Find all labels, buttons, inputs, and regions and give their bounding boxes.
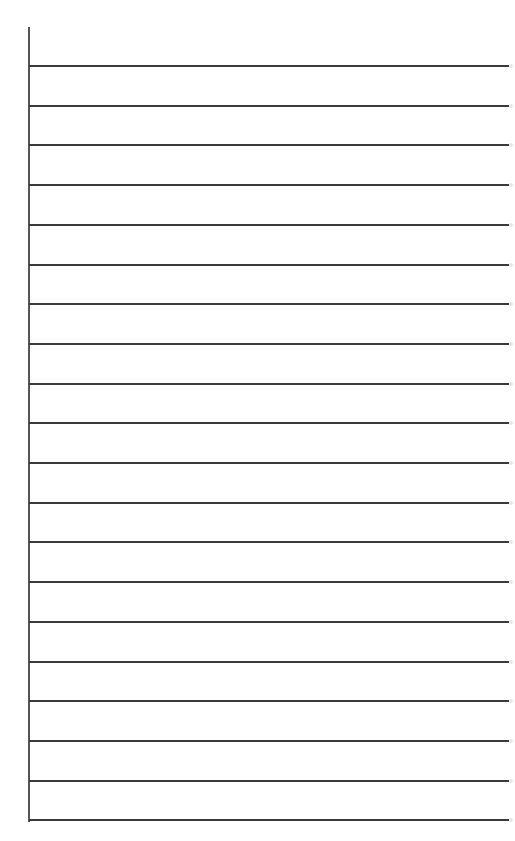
line-end-mark — [509, 501, 513, 505]
line-end-mark — [509, 382, 513, 386]
ruled-line — [29, 502, 509, 504]
line-end-mark — [509, 580, 513, 584]
line-end-mark — [509, 461, 513, 465]
ruled-line — [29, 661, 509, 663]
line-end-mark — [509, 699, 513, 703]
ruled-line — [29, 740, 509, 742]
line-end-mark — [509, 779, 513, 783]
ruled-line — [29, 700, 509, 702]
line-end-mark — [509, 620, 513, 624]
left-margin-line — [28, 27, 30, 822]
ruled-line — [29, 621, 509, 623]
line-end-mark — [509, 540, 513, 544]
ruled-line — [29, 144, 509, 146]
ruled-line — [29, 541, 509, 543]
ruled-line — [29, 264, 509, 266]
line-end-mark — [509, 143, 513, 147]
line-end-mark — [509, 818, 513, 822]
ruled-line — [29, 105, 509, 107]
line-end-mark — [509, 739, 513, 743]
line-end-mark — [509, 660, 513, 664]
line-end-mark — [509, 64, 513, 68]
ruled-line — [29, 184, 509, 186]
line-end-mark — [509, 421, 513, 425]
line-end-mark — [509, 223, 513, 227]
line-end-mark — [509, 263, 513, 267]
line-end-mark — [509, 342, 513, 346]
ruled-line — [29, 422, 509, 424]
ruled-line — [29, 343, 509, 345]
ruled-line — [29, 383, 509, 385]
lined-paper-page — [0, 0, 515, 841]
ruled-line — [29, 303, 509, 305]
ruled-line — [29, 65, 509, 67]
line-end-mark — [509, 104, 513, 108]
ruled-line — [29, 462, 509, 464]
ruled-line — [29, 581, 509, 583]
line-end-mark — [509, 183, 513, 187]
ruled-line — [29, 819, 509, 821]
ruled-line — [29, 224, 509, 226]
ruled-line — [29, 780, 509, 782]
line-end-mark — [509, 302, 513, 306]
